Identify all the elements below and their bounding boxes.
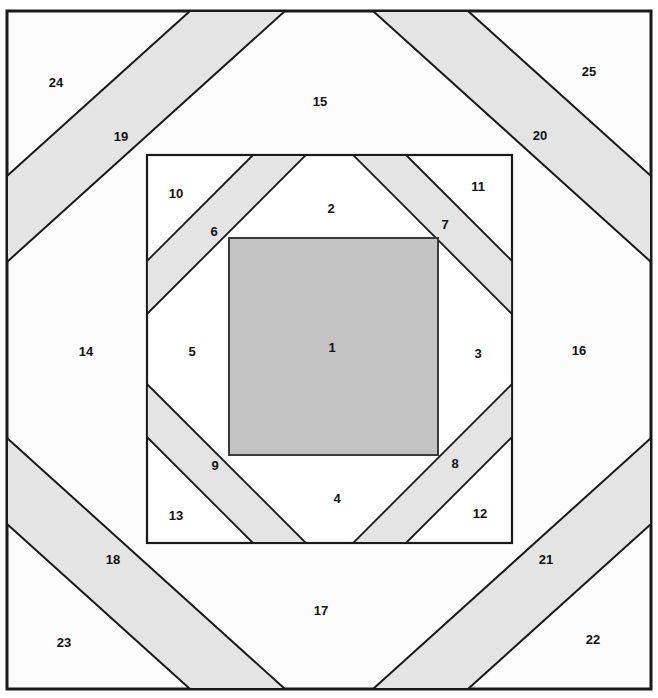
piece-label-2: 2 <box>327 201 334 216</box>
piece-label-13: 13 <box>169 508 183 523</box>
piece-label-4: 4 <box>333 491 341 506</box>
piece-label-24: 24 <box>49 75 64 90</box>
piece-label-1: 1 <box>328 340 335 355</box>
piece-label-12: 12 <box>473 506 487 521</box>
piece-label-18: 18 <box>106 552 120 567</box>
piece-label-7: 7 <box>441 217 448 232</box>
piece-label-10: 10 <box>169 186 183 201</box>
piece-label-11: 11 <box>471 179 485 194</box>
piece-label-5: 5 <box>188 344 195 359</box>
piece-label-20: 20 <box>533 128 547 143</box>
block-canvas: 1 2 3 4 5 6 7 8 9 10 11 12 13 14 15 16 1… <box>0 0 658 698</box>
piece-label-9: 9 <box>211 458 218 473</box>
quilt-block-diagram: 1 2 3 4 5 6 7 8 9 10 11 12 13 14 15 16 1… <box>0 0 658 698</box>
piece-label-21: 21 <box>539 552 553 567</box>
piece-label-3: 3 <box>474 346 481 361</box>
piece-label-15: 15 <box>313 94 327 109</box>
piece-label-6: 6 <box>210 224 217 239</box>
piece-label-17: 17 <box>314 603 328 618</box>
piece-label-22: 22 <box>586 632 600 647</box>
piece-label-8: 8 <box>451 456 458 471</box>
piece-label-14: 14 <box>79 344 94 359</box>
piece-label-23: 23 <box>57 635 71 650</box>
piece-label-16: 16 <box>572 343 586 358</box>
piece-label-25: 25 <box>582 64 596 79</box>
piece-label-19: 19 <box>114 129 128 144</box>
